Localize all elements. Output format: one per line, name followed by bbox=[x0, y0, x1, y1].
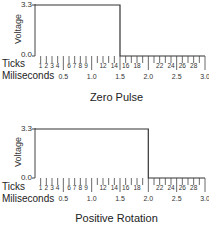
svg-text:8: 8 bbox=[79, 62, 83, 69]
positive-rotation-plot: 1234678912141618222426280.51.01.52.02.53… bbox=[0, 123, 209, 248]
svg-text:4: 4 bbox=[56, 62, 60, 69]
svg-text:18: 18 bbox=[133, 62, 141, 69]
svg-text:2: 2 bbox=[45, 184, 49, 191]
svg-text:12: 12 bbox=[99, 62, 107, 69]
svg-text:7: 7 bbox=[73, 62, 77, 69]
svg-text:2: 2 bbox=[45, 62, 49, 69]
svg-text:1: 1 bbox=[39, 62, 43, 69]
positive-rotation-chart: 1234678912141618222426280.51.01.52.02.53… bbox=[0, 123, 209, 248]
svg-text:24: 24 bbox=[167, 62, 175, 69]
ticks-row-label: Ticks bbox=[2, 181, 25, 192]
chart-title: Positive Rotation bbox=[12, 212, 209, 224]
svg-text:7: 7 bbox=[73, 184, 77, 191]
svg-text:16: 16 bbox=[122, 62, 130, 69]
y-tick-top: 3.3 bbox=[2, 0, 32, 9]
svg-text:3: 3 bbox=[50, 62, 54, 69]
ms-row-label: Miliseconds bbox=[2, 193, 54, 204]
svg-text:0.5: 0.5 bbox=[58, 195, 68, 202]
svg-text:0.5: 0.5 bbox=[58, 73, 68, 80]
svg-text:2.0: 2.0 bbox=[143, 73, 153, 80]
svg-text:18: 18 bbox=[133, 184, 141, 191]
svg-text:8: 8 bbox=[79, 184, 83, 191]
svg-text:2.5: 2.5 bbox=[172, 73, 182, 80]
svg-text:26: 26 bbox=[179, 62, 187, 69]
svg-text:22: 22 bbox=[156, 62, 164, 69]
y-axis-label: Voltage bbox=[13, 14, 23, 44]
svg-text:3: 3 bbox=[50, 184, 54, 191]
svg-text:1.0: 1.0 bbox=[87, 195, 97, 202]
svg-text:6: 6 bbox=[67, 62, 71, 69]
svg-text:2.0: 2.0 bbox=[143, 195, 153, 202]
svg-text:1.5: 1.5 bbox=[115, 195, 125, 202]
svg-text:12: 12 bbox=[99, 184, 107, 191]
chart-title: Zero Pulse bbox=[12, 91, 209, 103]
zero-pulse-plot: 1234678912141618222426280.51.01.52.02.53… bbox=[0, 0, 209, 125]
svg-text:3.0: 3.0 bbox=[200, 73, 209, 80]
svg-text:28: 28 bbox=[190, 62, 198, 69]
svg-text:4: 4 bbox=[56, 184, 60, 191]
svg-text:1: 1 bbox=[39, 184, 43, 191]
svg-text:22: 22 bbox=[156, 184, 164, 191]
ticks-row-label: Ticks bbox=[2, 58, 25, 69]
svg-text:1.5: 1.5 bbox=[115, 73, 125, 80]
y-tick-top: 3.3 bbox=[2, 124, 32, 133]
zero-pulse-chart: 1234678912141618222426280.51.01.52.02.53… bbox=[0, 0, 209, 125]
ms-row-label: Miliseconds bbox=[2, 70, 54, 81]
svg-text:16: 16 bbox=[122, 184, 130, 191]
svg-text:26: 26 bbox=[179, 184, 187, 191]
svg-text:14: 14 bbox=[111, 184, 119, 191]
svg-text:9: 9 bbox=[84, 184, 88, 191]
svg-text:28: 28 bbox=[190, 184, 198, 191]
y-axis-label: Voltage bbox=[13, 137, 23, 167]
svg-text:14: 14 bbox=[111, 62, 119, 69]
svg-text:1.0: 1.0 bbox=[87, 73, 97, 80]
svg-text:3.0: 3.0 bbox=[200, 195, 209, 202]
svg-text:2.5: 2.5 bbox=[172, 195, 182, 202]
svg-text:6: 6 bbox=[67, 184, 71, 191]
svg-text:24: 24 bbox=[167, 184, 175, 191]
svg-text:9: 9 bbox=[84, 62, 88, 69]
